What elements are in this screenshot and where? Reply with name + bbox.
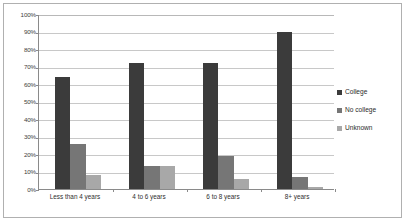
- legend-swatch-icon: [337, 90, 342, 95]
- y-axis-tick-label: 50%: [4, 99, 36, 105]
- bar[interactable]: [144, 166, 160, 189]
- y-axis-tick-label: 10%: [4, 169, 36, 175]
- legend-item[interactable]: College: [337, 88, 399, 96]
- legend-swatch-icon: [337, 108, 342, 113]
- y-axis-tick-label: 90%: [4, 29, 36, 35]
- y-axis-tick-label: 20%: [4, 152, 36, 158]
- y-axis-tick-mark: [36, 190, 39, 191]
- bar[interactable]: [160, 166, 176, 189]
- bars-layer: [39, 15, 334, 189]
- bar[interactable]: [70, 144, 86, 190]
- legend-item[interactable]: No college: [337, 106, 399, 114]
- legend-label: College: [345, 89, 367, 96]
- legend-swatch-icon: [337, 126, 342, 131]
- x-axis-tick-mark: [113, 189, 114, 192]
- x-axis-tick-label: Less than 4 years: [38, 194, 112, 200]
- x-axis-tick-mark: [187, 189, 188, 192]
- y-axis-tick-labels: 0%10%20%30%40%50%60%70%80%90%100%: [4, 15, 36, 190]
- chart-frame: 0%10%20%30%40%50%60%70%80%90%100% Less t…: [3, 3, 402, 218]
- y-axis-tick-label: 30%: [4, 134, 36, 140]
- x-axis-tick-mark: [335, 189, 336, 192]
- bar-group: [277, 15, 324, 189]
- y-axis-tick-label: 70%: [4, 64, 36, 70]
- legend-item[interactable]: Unknown: [337, 124, 399, 132]
- bar[interactable]: [277, 32, 293, 190]
- bar[interactable]: [234, 179, 250, 190]
- y-axis-tick-label: 0%: [4, 187, 36, 193]
- y-axis-tick-label: 40%: [4, 117, 36, 123]
- plot-area: [38, 15, 334, 190]
- bar[interactable]: [129, 63, 145, 189]
- x-axis-tick-label: 4 to 6 years: [112, 194, 186, 200]
- bar[interactable]: [55, 77, 71, 189]
- x-axis-tick-labels: Less than 4 years4 to 6 years6 to 8 year…: [38, 194, 334, 208]
- legend-label: Unknown: [345, 125, 373, 132]
- x-axis-tick-label: 8+ years: [260, 194, 334, 200]
- y-axis-tick-label: 60%: [4, 82, 36, 88]
- x-axis-tick-label: 6 to 8 years: [186, 194, 260, 200]
- y-axis-tick-label: 100%: [4, 12, 36, 18]
- bar-group: [129, 15, 176, 189]
- bar[interactable]: [308, 187, 324, 189]
- bar[interactable]: [292, 177, 308, 189]
- bar-group: [203, 15, 250, 189]
- legend-label: No college: [345, 107, 376, 114]
- chart-legend: CollegeNo collegeUnknown: [337, 88, 399, 142]
- bar[interactable]: [203, 63, 219, 189]
- bar-group: [55, 15, 102, 189]
- x-axis-tick-mark: [261, 189, 262, 192]
- bar[interactable]: [218, 156, 234, 189]
- y-axis-tick-label: 80%: [4, 47, 36, 53]
- bar[interactable]: [86, 175, 102, 189]
- plot-wrapper: 0%10%20%30%40%50%60%70%80%90%100% Less t…: [4, 4, 401, 217]
